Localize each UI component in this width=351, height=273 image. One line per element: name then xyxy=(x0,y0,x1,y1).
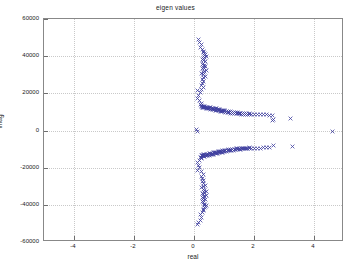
data-point-marker xyxy=(219,109,224,114)
data-point-marker xyxy=(228,147,233,152)
data-point-marker xyxy=(200,176,205,181)
data-point-marker xyxy=(258,112,263,117)
data-point-marker xyxy=(207,105,212,110)
data-point-marker xyxy=(201,196,206,201)
data-point-marker xyxy=(219,150,224,155)
data-point-marker xyxy=(201,70,206,75)
data-point-marker xyxy=(201,178,206,183)
x-tick-label: 2 xyxy=(251,243,254,249)
chart-title: eigen values xyxy=(0,4,351,11)
data-point-marker xyxy=(204,189,209,194)
data-point-marker xyxy=(261,145,266,150)
data-point-marker xyxy=(219,108,224,113)
data-point-marker xyxy=(201,58,206,63)
data-point-marker xyxy=(203,105,208,110)
data-point-marker xyxy=(201,187,206,192)
data-point-marker xyxy=(201,105,206,110)
data-point-marker xyxy=(202,154,207,159)
data-point-marker xyxy=(202,194,207,199)
data-point-marker xyxy=(200,191,205,196)
data-point-marker xyxy=(201,105,206,110)
data-point-marker xyxy=(231,148,236,153)
data-point-marker xyxy=(217,108,222,113)
data-point-marker xyxy=(211,106,216,111)
data-point-marker xyxy=(238,147,243,152)
data-point-marker xyxy=(202,66,207,71)
data-point-marker xyxy=(201,181,206,186)
data-point-marker xyxy=(217,149,222,154)
data-point-marker xyxy=(249,112,254,117)
data-point-marker xyxy=(252,146,257,151)
data-point-marker xyxy=(200,210,205,215)
data-point-marker xyxy=(199,87,204,92)
data-point-marker xyxy=(224,149,229,154)
data-point-marker xyxy=(202,51,207,56)
data-point-marker xyxy=(204,152,209,157)
data-point-marker xyxy=(221,149,226,154)
data-point-marker xyxy=(213,151,218,156)
data-point-marker xyxy=(201,207,206,212)
data-point-marker xyxy=(201,208,206,213)
data-point-marker xyxy=(200,62,205,67)
data-point-marker xyxy=(222,149,227,154)
data-point-marker xyxy=(220,150,225,155)
data-point-marker xyxy=(264,112,269,117)
data-point-marker xyxy=(270,113,275,118)
data-point-marker xyxy=(221,108,226,113)
data-point-marker xyxy=(198,102,203,107)
data-point-marker xyxy=(235,111,240,116)
data-point-marker xyxy=(203,52,208,57)
data-point-marker xyxy=(209,152,214,157)
data-point-marker xyxy=(231,110,236,115)
data-point-marker xyxy=(242,146,247,151)
data-point-marker xyxy=(200,66,205,71)
data-point-marker xyxy=(226,109,231,114)
data-point-marker xyxy=(201,198,206,203)
data-point-marker xyxy=(237,111,242,116)
data-point-marker xyxy=(201,50,206,55)
data-point-marker xyxy=(201,85,206,90)
data-point-marker xyxy=(264,145,269,150)
data-point-marker xyxy=(200,153,205,158)
data-point-marker xyxy=(201,200,206,205)
data-point-marker xyxy=(220,109,225,114)
data-point-marker xyxy=(220,148,225,153)
data-point-marker xyxy=(213,106,218,111)
data-point-marker xyxy=(203,204,208,209)
data-point-marker xyxy=(230,111,235,116)
data-point-marker xyxy=(233,110,238,115)
data-point-marker xyxy=(214,150,219,155)
y-tick-label: -20000 xyxy=(0,164,39,170)
data-point-marker xyxy=(199,174,204,179)
data-point-marker xyxy=(235,146,240,151)
data-point-marker xyxy=(224,109,229,114)
data-point-marker xyxy=(199,153,204,158)
data-point-marker xyxy=(216,150,221,155)
data-point-marker xyxy=(205,152,210,157)
data-point-marker xyxy=(207,106,212,111)
data-point-marker xyxy=(195,129,200,134)
data-point-marker xyxy=(202,69,207,74)
data-point-marker xyxy=(202,202,207,207)
data-point-marker xyxy=(205,105,210,110)
data-point-marker xyxy=(214,106,219,111)
data-point-marker xyxy=(271,117,276,122)
data-point-marker xyxy=(247,146,252,151)
data-point-marker xyxy=(271,143,276,148)
data-point-marker xyxy=(237,111,242,116)
data-point-marker xyxy=(202,152,207,157)
data-point-marker xyxy=(235,147,240,152)
data-point-marker xyxy=(240,146,245,151)
data-point-marker xyxy=(210,152,215,157)
data-point-marker xyxy=(205,106,210,111)
y-tick-label: 40000 xyxy=(0,52,39,58)
data-point-marker xyxy=(267,145,272,150)
data-point-marker xyxy=(330,129,335,134)
data-point-marker xyxy=(208,107,213,112)
data-point-marker xyxy=(195,222,200,227)
data-point-marker xyxy=(199,156,204,161)
x-tick-label: -2 xyxy=(130,243,135,249)
data-point-marker xyxy=(196,220,201,225)
data-point-marker xyxy=(198,45,203,50)
data-point-marker xyxy=(208,152,213,157)
